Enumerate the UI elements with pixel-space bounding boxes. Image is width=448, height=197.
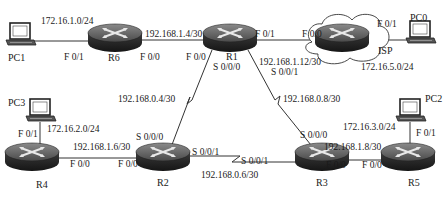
network-pc3-lan: 172.16.2.0/24 xyxy=(47,125,100,135)
router-r4-icon xyxy=(5,143,59,171)
pc2-icon xyxy=(396,99,426,121)
network-r1-r3: 192.168.0.8/30 xyxy=(283,95,340,105)
interface-isp-f01: F 0/1 xyxy=(377,20,397,30)
interface-r3-s001: S 0/0/1 xyxy=(241,157,268,167)
interface-r1-s000: S 0/0/0 xyxy=(213,63,240,73)
interface-r3-s000: S 0/0/0 xyxy=(300,131,327,141)
router-r5-icon xyxy=(381,143,435,171)
router-r6-icon xyxy=(88,24,142,52)
interface-r4-f00: F 0/0 xyxy=(70,160,90,170)
r5-label: R5 xyxy=(408,178,420,188)
isp-label: ISP xyxy=(378,46,392,56)
router-r2-icon xyxy=(136,143,190,171)
interface-r5-f01: F 0/1 xyxy=(416,129,436,139)
r1-label: R1 xyxy=(226,52,238,62)
link-r1-r2-serial xyxy=(170,50,212,150)
interface-r1-s001: S 0/0/1 xyxy=(271,68,298,78)
pc3-label: PC3 xyxy=(8,98,25,108)
r2-label: R2 xyxy=(157,178,169,188)
network-pc2-lan: 172.16.3.0/24 xyxy=(343,123,396,133)
network-r3-r5: 192.168.1.8/30 xyxy=(324,143,381,153)
interface-r5-f00: F 0/0 xyxy=(362,161,382,171)
pc0-icon xyxy=(406,21,436,43)
interface-r6-f00: F 0/0 xyxy=(140,53,160,63)
pc3-icon xyxy=(26,99,56,121)
network-pc0-lan: 172.16.5.0/24 xyxy=(361,63,414,73)
interface-r1-f00: F 0/0 xyxy=(186,53,206,63)
pc1-icon xyxy=(6,23,36,45)
network-r6-r1: 192.168.1.4/30 xyxy=(145,30,202,40)
pc2-label: PC2 xyxy=(425,94,442,104)
network-r4-r2: 192.168.1.6/30 xyxy=(73,143,130,153)
router-r1-icon xyxy=(203,24,257,52)
interface-r4-f01: F 0/1 xyxy=(18,130,38,140)
interface-r2-f00: F 0/0 xyxy=(118,160,138,170)
pc1-label: PC1 xyxy=(8,53,25,63)
r6-label: R6 xyxy=(108,53,120,63)
interface-isp-f00: F 0/0 xyxy=(302,30,322,40)
network-r2-r3: 192.168.0.6/30 xyxy=(201,171,258,181)
interface-r6-f01: F 0/1 xyxy=(64,53,84,63)
router-isp-icon xyxy=(315,24,369,52)
r3-label: R3 xyxy=(316,178,328,188)
interface-r2-s000: S 0/0/0 xyxy=(136,133,163,143)
network-pc1-lan: 172.16.1.0/24 xyxy=(41,17,94,27)
r4-label: R4 xyxy=(36,180,48,190)
interface-r1-f01: F 0/1 xyxy=(255,30,275,40)
network-r1-r2: 192.168.0.4/30 xyxy=(118,95,175,105)
interface-r2-s001: S 0/0/1 xyxy=(192,148,219,158)
pc0-label: PC0 xyxy=(410,13,427,23)
interface-r3-f00: F 0/0 xyxy=(326,161,346,171)
